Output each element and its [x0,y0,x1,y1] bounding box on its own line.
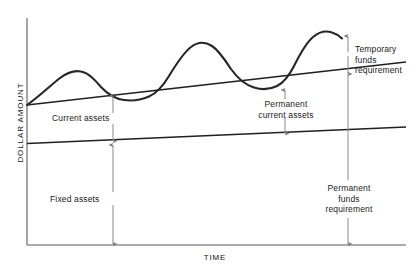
series-permanent-current-assets-line [27,62,406,105]
chart-plot-area [0,0,419,270]
x-axis-title: TIME [175,253,255,262]
series-total-assets-curve [27,32,342,105]
label-fixed-assets: Fixed assets [50,194,132,205]
y-axis-title: DOLLAR AMOUNT [16,77,25,169]
label-current-assets: Current assets [52,113,142,124]
series-fixed-assets-line [27,127,406,144]
asset-financing-chart: DOLLAR AMOUNT TIME Current assets Perman… [0,0,419,270]
label-permanent-current-assets: Permanent current assets [240,99,332,120]
label-temporary-funds-requirement: Temporary funds requirement [355,44,419,76]
label-permanent-funds-requirement: Permanent funds requirement [303,183,395,215]
